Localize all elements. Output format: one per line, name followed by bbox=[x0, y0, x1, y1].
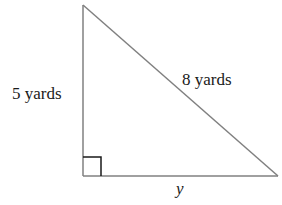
hypotenuse-label: 8 yards bbox=[182, 70, 232, 89]
right-angle-marker bbox=[83, 157, 101, 176]
horizontal-leg-label: y bbox=[174, 179, 184, 198]
hypotenuse bbox=[83, 5, 278, 176]
vertical-leg-label: 5 yards bbox=[12, 84, 62, 103]
right-triangle-diagram: 5 yards 8 yards y bbox=[0, 0, 282, 205]
triangle bbox=[83, 5, 278, 176]
